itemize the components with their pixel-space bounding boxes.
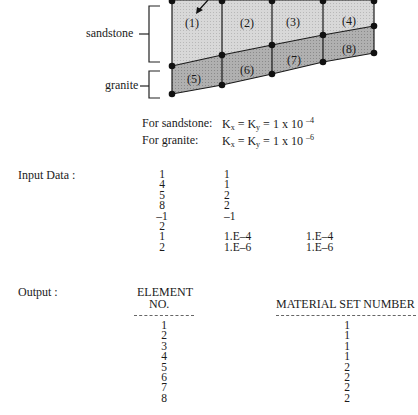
output-element-column: 12345678 [152, 320, 176, 403]
input-data-label: Input Data : [18, 168, 75, 183]
input-column-1: 1458–1212 [150, 169, 174, 252]
sandstone-bracket [149, 6, 160, 62]
input-column-3: 1.E–41.E–6 [306, 169, 354, 252]
sandstone-property-value: Kx = Ky = 1 x 10 –4 [222, 116, 314, 132]
element-header-divider [134, 315, 194, 316]
material-set-header: MATERIAL SET NUMBER [276, 297, 415, 312]
sandstone-property-label: For sandstone: [142, 116, 212, 131]
element-label-5: (5) [187, 72, 201, 87]
granite-bracket [149, 71, 160, 98]
element-label-4: (4) [342, 14, 356, 29]
granite-label: granite [105, 78, 138, 93]
element-label-2: (2) [240, 16, 254, 31]
sandstone-label: sandstone [86, 26, 133, 41]
granite-property-label: For granite: [142, 133, 198, 148]
output-label: Output : [18, 285, 58, 300]
element-no-header-2: NO. [149, 297, 169, 312]
element-label-7: (7) [287, 53, 301, 68]
input-column-2: 1122–11.E–41.E–6 [224, 169, 272, 252]
element-label-8: (8) [342, 42, 356, 57]
output-material-column: 11112222 [335, 320, 359, 403]
granite-property-value: Kx = Ky = 1 x 10 –6 [222, 133, 314, 149]
element-label-6: (6) [240, 63, 254, 78]
material-header-divider [276, 315, 416, 316]
element-label-1: (1) [185, 16, 199, 31]
element-label-3: (3) [286, 15, 300, 30]
